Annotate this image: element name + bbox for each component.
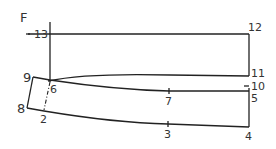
point-label-12: 12: [248, 21, 262, 34]
point-label-3: 3: [164, 128, 171, 141]
point-label-4: 4: [245, 130, 252, 143]
title-label: F: [20, 10, 27, 25]
point-label-7: 7: [165, 95, 172, 108]
point-label-2: 2: [40, 113, 47, 126]
point-label-11: 11: [251, 67, 265, 80]
pattern-diagram: F 13 12 11 10 9 8 7 6 5 4 3 2: [0, 0, 276, 149]
point-label-5: 5: [251, 92, 258, 105]
point-label-6: 6: [50, 83, 57, 96]
line-9-5: [33, 77, 249, 91]
curve-6-11: [48, 75, 249, 81]
point-label-8: 8: [17, 101, 25, 116]
point-label-9: 9: [23, 70, 31, 85]
point-label-13: 13: [34, 28, 48, 41]
bottom-line-8-4: [27, 108, 249, 127]
